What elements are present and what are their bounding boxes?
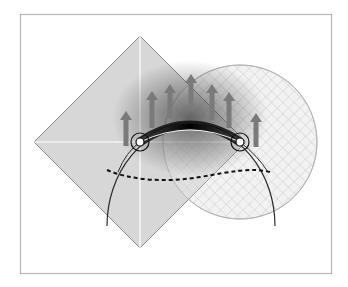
diagram-canvas [0,0,348,287]
diagram-svg [0,0,348,287]
